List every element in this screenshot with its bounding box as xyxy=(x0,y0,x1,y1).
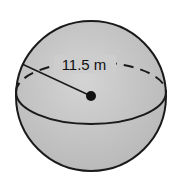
radius-label: 11.5 m xyxy=(62,56,107,73)
center-point xyxy=(86,91,96,101)
sphere-diagram: 11.5 m xyxy=(0,0,177,176)
